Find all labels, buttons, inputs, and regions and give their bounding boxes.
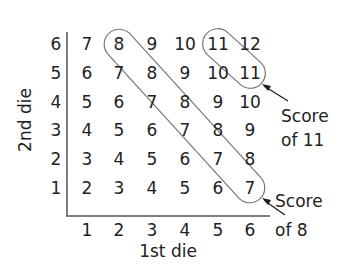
dice-sum-diagram: 6 5 4 3 2 1 1 2 3 4 5 6 1st die 2nd die … <box>0 0 350 270</box>
grid-cell: 6 <box>147 120 158 140</box>
x-tick-labels: 1 2 3 4 5 6 <box>82 220 256 240</box>
annotation-line1: Score <box>281 106 329 126</box>
annotation-line2: of 8 <box>275 220 308 240</box>
grid-cell: 6 <box>82 63 93 83</box>
y-tick: 1 <box>51 178 62 198</box>
grid-cell: 7 <box>114 63 125 83</box>
grid-cell: 7 <box>147 92 158 112</box>
x-tick: 1 <box>82 220 93 240</box>
grid-cell: 7 <box>245 178 256 198</box>
grid-cell: 5 <box>147 149 158 169</box>
grid-cell: 3 <box>82 149 93 169</box>
y-tick: 2 <box>51 149 62 169</box>
y-tick: 3 <box>51 120 62 140</box>
annotation-line2: of 11 <box>281 130 324 150</box>
grid-cell: 5 <box>114 120 125 140</box>
y-tick-labels: 6 5 4 3 2 1 <box>51 34 62 198</box>
grid-cell: 8 <box>147 63 158 83</box>
x-tick: 5 <box>213 220 224 240</box>
y-tick: 5 <box>51 63 62 83</box>
grid-cell: 9 <box>180 63 191 83</box>
grid-cell: 8 <box>245 149 256 169</box>
grid-cell: 6 <box>213 178 224 198</box>
grid-cell: 8 <box>114 34 125 54</box>
grid-cell: 3 <box>114 178 125 198</box>
x-tick: 3 <box>147 220 158 240</box>
annotation-score-11: Score of 11 <box>262 84 329 150</box>
grid-cell: 12 <box>239 34 261 54</box>
grid-cell: 8 <box>213 120 224 140</box>
x-axis-title: 1st die <box>139 241 197 261</box>
grid-cell: 4 <box>147 178 158 198</box>
grid-cell: 7 <box>213 149 224 169</box>
x-tick: 2 <box>114 220 125 240</box>
grid-cell: 10 <box>239 92 261 112</box>
grid-cell: 9 <box>147 34 158 54</box>
grid-cell: 11 <box>207 34 229 54</box>
grid-cell: 6 <box>114 92 125 112</box>
grid-cell: 10 <box>207 63 229 83</box>
grid-cell: 10 <box>174 34 196 54</box>
y-tick: 6 <box>51 34 62 54</box>
y-axis-title: 2nd die <box>15 88 35 152</box>
grid-cell: 11 <box>239 63 261 83</box>
grid-cell: 5 <box>82 92 93 112</box>
x-tick: 4 <box>180 220 191 240</box>
grid-cell: 2 <box>82 178 93 198</box>
grid-cell: 9 <box>213 92 224 112</box>
grid-cell: 9 <box>245 120 256 140</box>
grid-cell: 4 <box>114 149 125 169</box>
grid-cell: 7 <box>82 34 93 54</box>
x-tick: 6 <box>245 220 256 240</box>
sum-grid: 7 8 9 10 11 12 6 7 8 9 10 11 5 6 7 8 9 1… <box>82 34 261 198</box>
grid-cell: 6 <box>180 149 191 169</box>
grid-cell: 5 <box>180 178 191 198</box>
annotation-line1: Score <box>275 191 323 211</box>
annotation-score-8: Score of 8 <box>262 191 323 240</box>
grid-cell: 7 <box>180 120 191 140</box>
grid-cell: 8 <box>180 92 191 112</box>
grid-cell: 4 <box>82 120 93 140</box>
y-tick: 4 <box>51 92 62 112</box>
